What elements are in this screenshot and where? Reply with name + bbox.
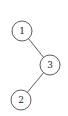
tree-diagram: 1 3 2 (0, 0, 68, 116)
node-3: 3 (40, 55, 60, 75)
node-1: 1 (12, 21, 32, 41)
node-1-label: 1 (19, 26, 25, 36)
node-2-label: 2 (18, 95, 24, 105)
edge-3-2 (27, 73, 43, 93)
node-3-label: 3 (47, 60, 53, 70)
edge-1-3 (29, 39, 44, 58)
node-2: 2 (11, 90, 31, 110)
